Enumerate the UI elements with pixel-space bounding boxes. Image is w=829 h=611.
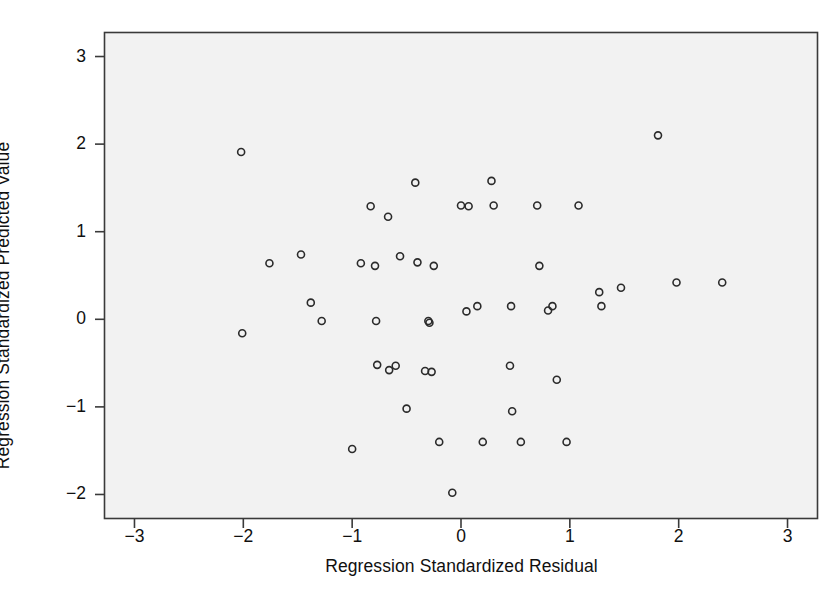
x-axis-label: Regression Standardized Residual	[104, 556, 819, 577]
plot-canvas	[0, 0, 829, 611]
y-axis-ticks	[95, 57, 104, 495]
scatter-plot-figure: Regression Standardized Predicted Value …	[0, 0, 829, 611]
plot-background	[104, 32, 818, 519]
x-axis-ticks	[134, 519, 787, 528]
